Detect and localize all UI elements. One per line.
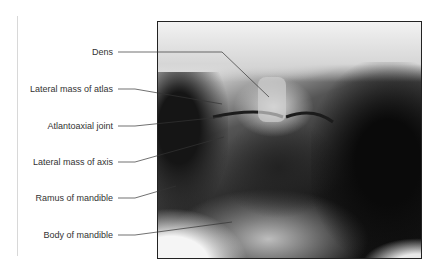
leader-lines [0,0,441,276]
